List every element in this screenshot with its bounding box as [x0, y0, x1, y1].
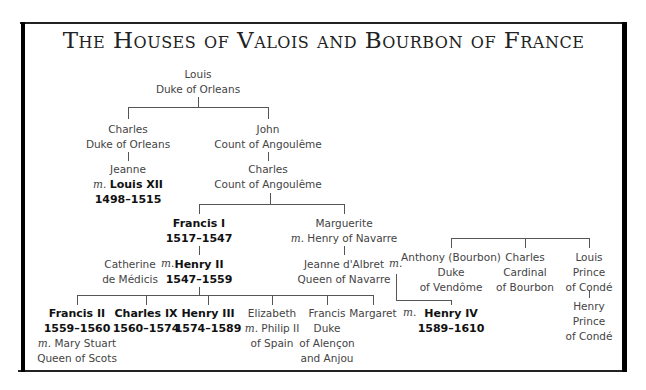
- node-title: Prince: [566, 314, 613, 329]
- connector: [146, 295, 147, 305]
- node-title: of Vendôme: [401, 280, 501, 295]
- node-catherine-de-medicis: Catherine de Médicis: [102, 257, 158, 287]
- node-title: Prince: [566, 265, 613, 280]
- node-elizabeth: Elizabeth m. Philip II of Spain: [245, 306, 300, 351]
- node-spouse-title: Queen of Scots: [37, 351, 117, 366]
- connector: [128, 107, 129, 119]
- node-title: of Condé: [566, 329, 613, 344]
- node-reign: 1574–1589: [175, 321, 242, 336]
- connector: [344, 246, 345, 255]
- node-name: Henry III: [175, 306, 242, 321]
- node-reign: 1547–1559: [166, 272, 233, 287]
- node-francis-duke-of-alencon: Francis Duke of Alençon and Anjou: [299, 306, 355, 366]
- connector: [344, 204, 345, 214]
- connector: [525, 238, 526, 248]
- connector: [268, 107, 269, 119]
- diagram-title: The Houses of Valois and Bourbon of Fran…: [25, 27, 622, 53]
- node-name: Jeanne: [93, 162, 163, 177]
- connector: [128, 107, 268, 108]
- node-title: Duke of Orleans: [86, 137, 170, 152]
- node-name: Anthony (Bourbon): [401, 250, 501, 265]
- node-title: of Bourbon: [496, 280, 554, 295]
- marriage-marker: m.: [93, 178, 106, 190]
- connector: [199, 204, 344, 205]
- node-john-count-of-angouleme: John Count of Angoulême: [214, 122, 322, 152]
- node-jeanne: Jeanne m. Louis XII 1498–1515: [93, 162, 163, 207]
- node-name: Charles IX: [113, 306, 180, 321]
- node-name: Catherine: [102, 257, 158, 272]
- node-henry-iv: Henry IV 1589–1610: [418, 306, 485, 336]
- node-title: of Condé: [566, 280, 613, 295]
- node-name: Charles: [496, 250, 554, 265]
- connector: [270, 193, 271, 204]
- marriage-marker: m.: [245, 322, 258, 334]
- node-title: Duke of Orleans: [156, 82, 240, 97]
- connector: [327, 295, 328, 305]
- node-marguerite: Marguerite m. Henry of Navarre: [291, 216, 398, 246]
- node-jeanne-d-albret: Jeanne d'Albret Queen of Navarre: [298, 257, 391, 287]
- node-henry-iii: Henry III 1574–1589: [175, 306, 242, 336]
- node-name: Louis: [156, 67, 240, 82]
- marriage-marker: m.: [291, 232, 304, 244]
- node-charles-cardinal-of-bourbon: Charles Cardinal of Bourbon: [496, 250, 554, 295]
- connector: [451, 300, 452, 305]
- connector: [451, 238, 452, 248]
- node-title: Cardinal: [496, 265, 554, 280]
- node-title: Count of Angoulême: [214, 177, 322, 192]
- node-name: Francis II: [37, 306, 117, 321]
- connector: [396, 300, 452, 301]
- node-reign: 1589–1610: [418, 321, 485, 336]
- node-reign: 1559–1560: [37, 321, 117, 336]
- node-name: Marguerite: [291, 216, 398, 231]
- node-louis-prince-of-conde: Louis Prince of Condé: [566, 250, 613, 295]
- connector: [272, 295, 273, 305]
- frame-bottom-border: [18, 370, 624, 372]
- node-name: Charles: [214, 162, 322, 177]
- connector: [208, 295, 209, 305]
- connector: [589, 238, 590, 248]
- connector: [373, 295, 374, 305]
- node-charles-duke-of-orleans: Charles Duke of Orleans: [86, 122, 170, 152]
- node-reign: 1498–1515: [93, 192, 163, 207]
- node-spouse: Philip II: [261, 322, 299, 334]
- node-name: Charles: [86, 122, 170, 137]
- marriage-marker: m.: [403, 306, 416, 318]
- node-francis-i: Francis I 1517–1547: [166, 216, 233, 246]
- connector: [451, 238, 589, 239]
- node-francis-ii: Francis II 1559–1560 m. Mary Stuart Quee…: [37, 306, 117, 366]
- node-title: Queen of Navarre: [298, 272, 391, 287]
- node-name: Margaret: [349, 306, 396, 321]
- node-henry-prince-of-conde: Henry Prince of Condé: [566, 299, 613, 344]
- connector: [396, 274, 397, 300]
- node-henry-ii: Henry II 1547–1559: [166, 257, 233, 287]
- node-name: Jeanne d'Albret: [298, 257, 391, 272]
- node-anthony-bourbon: Anthony (Bourbon) Duke of Vendôme: [401, 250, 501, 295]
- connector: [199, 287, 200, 295]
- connector: [199, 246, 200, 255]
- node-title: of Alençon: [299, 336, 355, 351]
- node-name: Henry II: [166, 257, 233, 272]
- node-name: John: [214, 122, 322, 137]
- node-name: Louis: [566, 250, 613, 265]
- node-spouse: Henry of Navarre: [307, 232, 397, 244]
- frame-left-border: [21, 22, 25, 372]
- node-reign: 1560–1574: [113, 321, 180, 336]
- node-louis-duke-of-orleans: Louis Duke of Orleans: [156, 67, 240, 97]
- connector: [77, 295, 373, 296]
- frame-right-border: [622, 22, 627, 372]
- node-charles-ix: Charles IX 1560–1574: [113, 306, 180, 336]
- node-name: de Médicis: [102, 272, 158, 287]
- marriage-marker: m.: [38, 337, 51, 349]
- frame-top-border: [20, 22, 625, 24]
- node-name: Elizabeth: [245, 306, 300, 321]
- connector: [128, 152, 129, 161]
- node-name: Henry: [566, 299, 613, 314]
- node-spouse-title: of Spain: [245, 336, 300, 351]
- node-name: Henry IV: [418, 306, 485, 321]
- node-title: Duke: [401, 265, 501, 280]
- node-name: Francis I: [166, 216, 233, 231]
- node-charles-count-of-angouleme: Charles Count of Angoulême: [214, 162, 322, 192]
- node-spouse: Mary Stuart: [54, 337, 116, 349]
- node-margaret: Margaret: [349, 306, 396, 321]
- connector: [77, 295, 78, 305]
